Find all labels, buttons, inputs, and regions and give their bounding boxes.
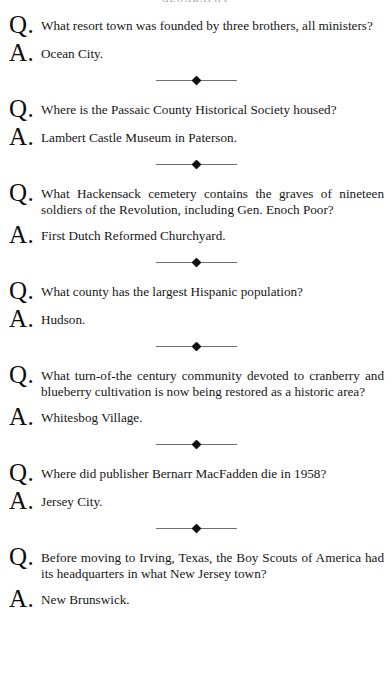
- diamond-divider: [7, 250, 385, 274]
- divider-rule-right: [200, 528, 237, 529]
- answer-marker: A.: [7, 404, 41, 429]
- answer-line: A. New Brunswick.: [7, 585, 385, 610]
- divider-rule-left: [156, 346, 193, 347]
- question-line: Q. What county has the largest Hispanic …: [7, 277, 385, 302]
- question-line: Q. What turn-of-the century community de…: [7, 361, 385, 400]
- divider-rule-left: [156, 262, 193, 263]
- qa-entry: Q. What resort town was founded by three…: [7, 11, 385, 64]
- qa-entry: Q. Before moving to Irving, Texas, the B…: [7, 543, 385, 610]
- answer-text: Whitesbog Village.: [41, 403, 385, 426]
- question-marker: Q.: [7, 12, 41, 37]
- divider-rule-right: [200, 346, 237, 347]
- answer-text: New Brunswick.: [41, 585, 385, 608]
- answer-marker: A.: [7, 222, 41, 247]
- divider-rule-right: [200, 444, 237, 445]
- answer-line: A. Jersey City.: [7, 487, 385, 512]
- qa-entry: Q. What Hackensack cemetery contains the…: [7, 179, 385, 246]
- qa-entry: Q. Where did publisher Bernarr MacFadden…: [7, 459, 385, 512]
- diamond-icon: [191, 341, 201, 351]
- question-line: Q. Where is the Passaic County Historica…: [7, 95, 385, 120]
- question-text: Where is the Passaic County Historical S…: [41, 95, 385, 118]
- answer-text: Hudson.: [41, 305, 385, 328]
- qa-list: Q. What resort town was founded by three…: [7, 0, 385, 610]
- diamond-divider: [7, 152, 385, 176]
- answer-text: Ocean City.: [41, 39, 385, 62]
- answer-text: First Dutch Reformed Churchyard.: [41, 221, 385, 244]
- divider-rule-left: [156, 80, 193, 81]
- question-line: Q. What Hackensack cemetery contains the…: [7, 179, 385, 218]
- answer-marker: A.: [7, 586, 41, 611]
- diamond-icon: [191, 159, 201, 169]
- diamond-divider: [7, 334, 385, 358]
- diamond-icon: [191, 439, 201, 449]
- qa-entry: Q. What county has the largest Hispanic …: [7, 277, 385, 330]
- answer-text: Lambert Castle Museum in Paterson.: [41, 123, 385, 146]
- question-text: What resort town was founded by three br…: [41, 11, 385, 34]
- divider-rule-right: [200, 262, 237, 263]
- divider-rule-right: [200, 164, 237, 165]
- answer-marker: A.: [7, 488, 41, 513]
- question-text: Where did publisher Bernarr MacFadden di…: [41, 459, 385, 482]
- answer-marker: A.: [7, 306, 41, 331]
- question-line: Q. What resort town was founded by three…: [7, 11, 385, 36]
- question-text: What turn-of-the century community devot…: [41, 361, 385, 400]
- running-head: GEOGRAPHY: [0, 0, 392, 5]
- answer-line: A. Whitesbog Village.: [7, 403, 385, 428]
- divider-rule-left: [156, 444, 193, 445]
- question-text: Before moving to Irving, Texas, the Boy …: [41, 543, 385, 582]
- question-marker: Q.: [7, 362, 41, 387]
- question-marker: Q.: [7, 180, 41, 205]
- answer-line: A. Lambert Castle Museum in Paterson.: [7, 123, 385, 148]
- qa-entry: Q. What turn-of-the century community de…: [7, 361, 385, 428]
- question-marker: Q.: [7, 96, 41, 121]
- answer-line: A. Ocean City.: [7, 39, 385, 64]
- qa-entry: Q. Where is the Passaic County Historica…: [7, 95, 385, 148]
- question-marker: Q.: [7, 460, 41, 485]
- question-marker: Q.: [7, 544, 41, 569]
- answer-marker: A.: [7, 40, 41, 65]
- diamond-divider: [7, 68, 385, 92]
- answer-text: Jersey City.: [41, 487, 385, 510]
- diamond-divider: [7, 516, 385, 540]
- question-line: Q. Where did publisher Bernarr MacFadden…: [7, 459, 385, 484]
- question-text: What county has the largest Hispanic pop…: [41, 277, 385, 300]
- scanned-page: GEOGRAPHY Q. What resort town was founde…: [0, 0, 392, 679]
- answer-marker: A.: [7, 124, 41, 149]
- divider-rule-left: [156, 164, 193, 165]
- question-marker: Q.: [7, 278, 41, 303]
- diamond-icon: [191, 75, 201, 85]
- diamond-icon: [191, 523, 201, 533]
- answer-line: A. Hudson.: [7, 305, 385, 330]
- question-text: What Hackensack cemetery contains the gr…: [41, 179, 385, 218]
- diamond-divider: [7, 432, 385, 456]
- divider-rule-right: [200, 80, 237, 81]
- divider-rule-left: [156, 528, 193, 529]
- question-line: Q. Before moving to Irving, Texas, the B…: [7, 543, 385, 582]
- answer-line: A. First Dutch Reformed Churchyard.: [7, 221, 385, 246]
- diamond-icon: [191, 257, 201, 267]
